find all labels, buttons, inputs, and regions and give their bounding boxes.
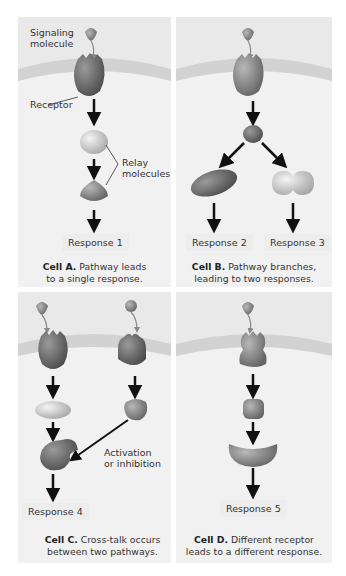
caption-cell-c: Cell C. Cross-talk occurs between two pa… [26,534,171,557]
signaling-molecule-icon [242,28,254,41]
caption-cell-a: Cell A. Pathway leads to a single respon… [18,261,171,284]
response-5-label: Response 5 [220,500,287,517]
response-3-label: Response 3 [264,234,331,251]
response-4-label: Response 4 [22,503,89,520]
caption-cell-d: Cell D. Different receptor leads to a di… [176,534,332,557]
receptor-icon [74,53,105,96]
signaling-molecule-icon [85,28,97,41]
response-1-label: Response 1 [62,234,129,251]
response-2-label: Response 2 [186,234,253,251]
receptor-icon [239,331,266,367]
cell-c-diagram [18,292,171,563]
signaling-molecule-icon [125,300,137,312]
relay-molecule-icon [243,399,264,419]
cell-d-diagram [176,292,332,563]
receptor-icon [118,334,146,365]
caption-cell-b: Cell B. Pathway branches, leading to two… [176,261,332,284]
label-receptor: Receptor [30,99,73,110]
panel-cell-a: Signaling molecule Receptor Relay molecu… [18,17,171,287]
receptor-icon [38,330,68,369]
relay-molecule-icon [243,125,263,143]
signaling-molecule-icon [242,302,254,315]
relay-molecule-icon [80,130,108,154]
label-relay-molecules: Relay molecules [122,157,170,179]
panel-cell-c: Activation or inhibition Response 4 Cell… [18,292,171,563]
receptor-icon [233,53,264,96]
panel-cell-b: Response 2 Response 3 Cell B. Pathway br… [176,17,332,287]
relay-molecule-icon [35,401,71,419]
label-activation-inhibition: Activation or inhibition [104,447,161,469]
label-signaling-molecule: Signaling molecule [30,27,74,49]
panel-cell-d: Response 5 Cell D. Different receptor le… [176,292,332,563]
signaling-molecule-icon [36,302,48,315]
